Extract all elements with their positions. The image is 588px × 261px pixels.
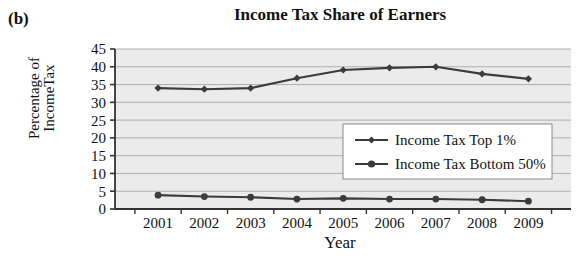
series-marker bbox=[479, 196, 486, 203]
y-tick-label: 5 bbox=[99, 184, 107, 200]
x-tick-label: 2008 bbox=[467, 215, 497, 231]
series-marker bbox=[155, 192, 162, 199]
legend-marker-2 bbox=[368, 160, 375, 167]
series-marker bbox=[201, 193, 208, 200]
series-marker bbox=[525, 198, 532, 205]
series-marker bbox=[340, 195, 347, 202]
x-tick-label: 2003 bbox=[236, 215, 266, 231]
series-marker bbox=[386, 196, 393, 203]
x-tick-labels-group: 200120022003200420052006200720082009 bbox=[143, 215, 543, 231]
y-tick-label: 35 bbox=[91, 77, 106, 93]
series-marker bbox=[294, 196, 301, 203]
y-tick-labels-group: 051015202530354045 bbox=[91, 41, 106, 217]
series-marker bbox=[247, 194, 254, 201]
x-tick-label: 2006 bbox=[375, 215, 406, 231]
y-tick-label: 45 bbox=[91, 41, 106, 57]
x-tick-label: 2004 bbox=[282, 215, 313, 231]
y-tick-label: 40 bbox=[91, 59, 106, 75]
chart-legend[interactable]: Income Tax Top 1%Income Tax Bottom 50% bbox=[343, 124, 552, 179]
x-tick-label: 2007 bbox=[421, 215, 452, 231]
y-tick-label: 10 bbox=[91, 166, 106, 182]
series-marker bbox=[432, 196, 439, 203]
legend-label-2[interactable]: Income Tax Bottom 50% bbox=[395, 156, 546, 172]
y-tick-label: 20 bbox=[91, 130, 106, 146]
x-tick-label: 2001 bbox=[143, 215, 173, 231]
y-tick-label: 30 bbox=[91, 95, 106, 111]
line-chart-plot: 051015202530354045 200120022003200420052… bbox=[0, 0, 588, 261]
y-tick-label: 15 bbox=[91, 148, 106, 164]
x-tick-label: 2002 bbox=[189, 215, 219, 231]
y-tick-label: 0 bbox=[99, 201, 107, 217]
x-tick-label: 2005 bbox=[328, 215, 358, 231]
y-tick-label: 25 bbox=[91, 113, 106, 129]
legend-label-1[interactable]: Income Tax Top 1% bbox=[395, 132, 516, 148]
x-tick-label: 2009 bbox=[513, 215, 543, 231]
figure-panel: (b) Income Tax Share of Earners Percenta… bbox=[0, 0, 588, 261]
